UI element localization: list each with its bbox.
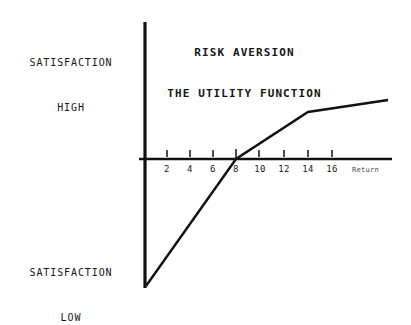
y-axis-label-low: SATISFACTION LOW: [12, 242, 130, 325]
y-axis-label-high: SATISFACTION HIGH: [12, 32, 130, 139]
y-axis-label-high-line-2: HIGH: [12, 102, 130, 115]
y-axis-label-low-line-2: LOW: [12, 312, 130, 325]
x-tick-label-4: 10: [247, 164, 273, 174]
x-axis-title: Return: [352, 166, 379, 175]
x-tick-label-7: 16: [319, 164, 345, 174]
y-axis-label-high-line-1: SATISFACTION: [12, 57, 130, 70]
x-tick-label-6: 14: [295, 164, 321, 174]
y-axis-label-low-line-1: SATISFACTION: [12, 267, 130, 280]
x-tick-label-5: 12: [271, 164, 297, 174]
x-tick-label-3: 8: [223, 164, 249, 174]
